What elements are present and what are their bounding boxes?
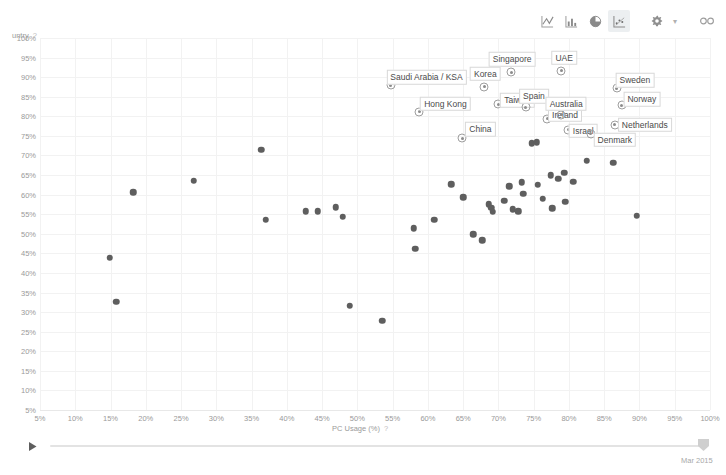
x-axis-tick-label: 65% [456,414,471,423]
gridline-vertical [393,38,394,410]
data-point[interactable] [562,198,569,205]
x-axis-tick-label: 20% [138,414,153,423]
data-point-label[interactable]: Australia [546,96,587,111]
gridline-horizontal [40,371,710,372]
data-point[interactable] [448,181,455,188]
x-axis-tick-label: 15% [103,414,118,423]
data-point[interactable] [258,146,265,153]
x-axis-line [40,410,710,411]
y-axis-tick-label: 35% [0,288,36,297]
data-point[interactable] [506,183,513,190]
data-point-label[interactable]: Saudi Arabia / KSA [386,70,466,85]
y-axis-tick-label: 95% [0,53,36,62]
data-point[interactable] [490,209,497,216]
gridline-horizontal [40,38,710,39]
data-point[interactable] [501,198,508,205]
data-point[interactable] [479,237,486,244]
x-axis-tick-label: 25% [174,414,189,423]
gridline-horizontal [40,312,710,313]
play-button[interactable] [24,438,40,454]
y-axis-tick-label: 100% [0,34,36,43]
data-point-label[interactable]: Netherlands [618,118,672,133]
gridline-vertical [675,38,676,410]
gridline-vertical [463,38,464,410]
data-point-highlighted[interactable] [557,66,566,75]
data-point[interactable] [411,225,418,232]
y-axis-tick-label: 90% [0,73,36,82]
x-axis-tick-label: 70% [491,414,506,423]
data-point-highlighted[interactable] [521,103,530,112]
data-point[interactable] [533,139,540,146]
data-point[interactable] [633,213,640,220]
data-point[interactable] [303,208,310,215]
data-point[interactable] [315,208,322,215]
data-point-highlighted[interactable] [480,82,489,91]
x-axis-tick-label: 75% [526,414,541,423]
data-point-label[interactable]: UAE [551,50,576,65]
data-point[interactable] [555,176,562,183]
data-point[interactable] [470,231,477,238]
data-point[interactable] [130,189,137,196]
x-axis-tick-label: 40% [279,414,294,423]
gridline-horizontal [40,332,710,333]
gridline-vertical [357,38,358,410]
data-point[interactable] [107,254,114,261]
data-point-label[interactable]: China [465,122,495,137]
data-point[interactable] [332,204,339,211]
data-point[interactable] [412,245,419,252]
data-point-highlighted[interactable] [557,110,566,119]
timeline-control: Mar 2015 [0,430,726,475]
y-axis-tick-label: 25% [0,327,36,336]
data-point[interactable] [610,159,617,166]
data-point-label[interactable]: Korea [470,67,501,82]
data-point[interactable] [113,299,120,306]
gridline-vertical [40,38,41,410]
scatter-chart: untry? 5%10%15%20%25%30%35%40%45%50%55%6… [0,0,726,430]
y-axis-tick-label: 10% [0,386,36,395]
gridline-horizontal [40,253,710,254]
data-point[interactable] [547,172,554,179]
gridline-vertical [216,38,217,410]
data-point[interactable] [549,205,556,212]
y-axis-tick-label: 45% [0,249,36,258]
data-point-label[interactable]: Singapore [489,52,536,67]
data-point[interactable] [346,303,353,310]
y-axis-tick-label: 65% [0,171,36,180]
x-axis-tick-label: 85% [597,414,612,423]
x-axis-tick-label: 55% [385,414,400,423]
gridline-horizontal [40,58,710,59]
data-point-label[interactable]: Denmark [594,133,636,148]
data-point-highlighted[interactable] [507,68,516,77]
timeline-current-label: Mar 2015 [681,456,713,465]
data-point-label[interactable]: Sweden [616,73,655,88]
gridline-vertical [146,38,147,410]
data-point-label[interactable]: Spain [519,89,549,104]
data-point[interactable] [520,191,527,198]
data-point[interactable] [535,182,542,189]
x-axis-tick-label: 60% [420,414,435,423]
gridline-vertical [322,38,323,410]
data-point[interactable] [379,317,386,324]
gridline-vertical [75,38,76,410]
gridline-horizontal [40,390,710,391]
data-point[interactable] [583,158,590,165]
data-point-label[interactable]: Norway [623,92,660,107]
timeline-slider-handle[interactable] [697,438,710,452]
data-point[interactable] [460,194,467,201]
gridline-horizontal [40,293,710,294]
data-point[interactable] [540,196,547,203]
y-axis-tick-label: 80% [0,112,36,121]
y-axis-tick-label: 20% [0,347,36,356]
data-point[interactable] [262,216,269,223]
data-point[interactable] [515,208,522,215]
data-point[interactable] [431,216,438,223]
data-point[interactable] [561,169,568,176]
data-point-label[interactable]: Hong Kong [420,96,471,111]
data-point[interactable] [518,179,525,186]
timeline-slider-track[interactable] [50,445,705,447]
data-point[interactable] [339,213,346,220]
data-point[interactable] [570,178,577,185]
gridline-vertical [287,38,288,410]
data-point[interactable] [190,178,197,185]
x-axis-tick-label: 95% [667,414,682,423]
